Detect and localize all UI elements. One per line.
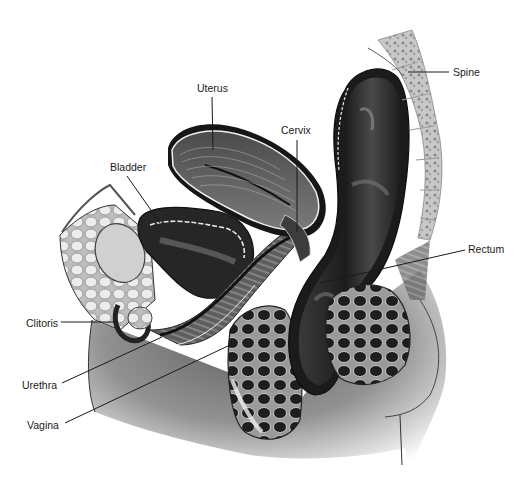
- label-spine: Spine: [453, 66, 480, 78]
- label-vagina: Vagina: [27, 419, 59, 431]
- anatomy-illustration: [0, 0, 531, 485]
- label-rectum: Rectum: [468, 243, 504, 255]
- label-bladder: Bladder: [110, 161, 146, 173]
- label-uterus: Uterus: [197, 82, 228, 94]
- label-urethra: Urethra: [22, 379, 57, 391]
- label-cervix: Cervix: [281, 124, 311, 136]
- label-clitoris: Clitoris: [26, 317, 58, 329]
